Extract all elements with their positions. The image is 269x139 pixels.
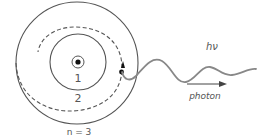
orbit-2-label: 2 [75, 92, 82, 105]
energy-label: hν [206, 41, 218, 52]
photon-label: photon [188, 91, 221, 101]
photon-wave [122, 60, 256, 82]
arrowhead-icon [219, 81, 227, 87]
bohr-diagram: 1 2 n = 3 hν photon [0, 0, 269, 139]
transition-path [16, 27, 122, 111]
nucleus-icon [75, 59, 80, 64]
orbit-1-label: 1 [75, 72, 82, 85]
orbit-3-label: n = 3 [67, 127, 92, 137]
